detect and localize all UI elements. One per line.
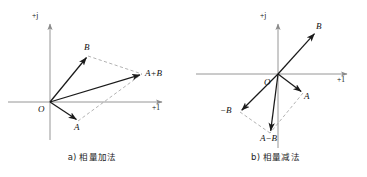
caption-panel-a: a) 相量加法: [0, 150, 184, 162]
vectors-group-a: [50, 58, 140, 120]
vector-b-b: [278, 34, 315, 74]
origin-label-a: O: [38, 105, 45, 114]
imaginary-axis-label-a: +j: [32, 12, 38, 20]
imaginary-axis-label-b: +j: [260, 12, 266, 20]
vector-b-a: [50, 58, 87, 103]
phasor-figure: +j +1 O B A A+B a) 相量加法: [0, 0, 367, 177]
real-axis-label-b: +1: [337, 76, 345, 84]
vector-label-sum: A+B: [145, 69, 162, 78]
dashed-line-negb-to-diff: [240, 112, 270, 133]
vector-label-a-b: A: [304, 92, 310, 101]
origin-label-b: O: [264, 78, 271, 87]
vector-label-a-a: A: [74, 123, 80, 132]
vector-label-b-b: B: [316, 22, 322, 31]
vector-label-neg-b: −B: [220, 106, 232, 115]
vector-label-diff: A−B: [260, 134, 277, 143]
caption-panel-b: b) 相量减法: [184, 150, 367, 162]
dashed-line-a-to-sum: [78, 74, 142, 121]
vector-diff-ab: [271, 74, 278, 131]
vector-neg-b: [242, 74, 278, 110]
vector-label-b-a: B: [84, 43, 90, 52]
construction-lines-a: [78, 56, 142, 121]
vector-a-b: [278, 74, 301, 92]
dashed-line-b-to-sum: [88, 56, 142, 74]
real-axis-label-a: +1: [152, 104, 160, 112]
panel-phasor-subtraction: +j +1 O B A −B A−B b) 相量减法: [184, 0, 367, 177]
vector-a-a: [50, 102, 77, 120]
vector-sum-ab: [50, 75, 140, 102]
panel-phasor-addition: +j +1 O B A A+B a) 相量加法: [0, 0, 184, 177]
